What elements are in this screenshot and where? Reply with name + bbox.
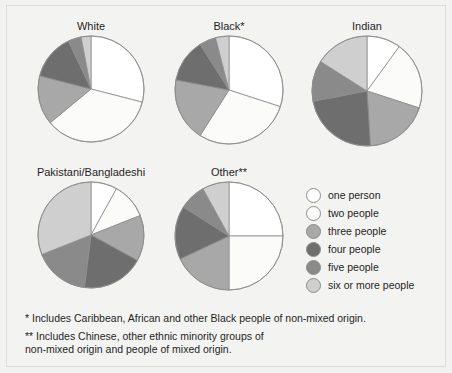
- legend-swatch-icon: [306, 278, 321, 293]
- chart-legend: one persontwo peoplethree peoplefour peo…: [306, 186, 446, 294]
- pie-panel-pakistani-bangladeshi: Pakistani/Bangladeshi: [11, 166, 171, 289]
- legend-row: five people: [306, 258, 446, 276]
- pie-title-other: Other**: [159, 166, 299, 179]
- figure-frame: White Black* Indian Pakistani/Bangladesh…: [6, 5, 446, 367]
- legend-label: one person: [328, 189, 381, 201]
- legend-label: three people: [328, 225, 386, 237]
- legend-row: three people: [306, 222, 446, 240]
- legend-row: six or more people: [306, 276, 446, 294]
- pie-panel-indian: Indian: [297, 20, 437, 147]
- legend-swatch-icon: [306, 260, 321, 275]
- legend-swatch-icon: [306, 188, 321, 203]
- pie-panel-white: White: [21, 20, 161, 143]
- legend-swatch-icon: [306, 242, 321, 257]
- pie-slice: [229, 236, 283, 290]
- pie-slice: [229, 182, 283, 236]
- pie-chart-black: [174, 35, 284, 145]
- pie-panel-black: Black*: [159, 20, 299, 145]
- pie-title-white: White: [21, 20, 161, 33]
- pie-title-indian: Indian: [297, 20, 437, 33]
- legend-swatch-icon: [306, 224, 321, 239]
- pie-chart-indian: [311, 35, 423, 147]
- footnote-black: * Includes Caribbean, African and other …: [25, 312, 435, 325]
- legend-label: four people: [328, 243, 381, 255]
- pie-title-pakistani-bangladeshi: Pakistani/Bangladeshi: [11, 166, 171, 179]
- pie-panel-other: Other**: [159, 166, 299, 291]
- legend-row: one person: [306, 186, 446, 204]
- pie-chart-white: [37, 35, 145, 143]
- legend-swatch-icon: [306, 206, 321, 221]
- footnotes: * Includes Caribbean, African and other …: [25, 312, 435, 361]
- legend-label: five people: [328, 261, 379, 273]
- legend-row: two people: [306, 204, 446, 222]
- legend-label: two people: [328, 207, 379, 219]
- pie-title-black: Black*: [159, 20, 299, 33]
- legend-row: four people: [306, 240, 446, 258]
- footnote-other: ** Includes Chinese, other ethnic minori…: [25, 330, 435, 356]
- legend-label: six or more people: [328, 279, 414, 291]
- pie-chart-other: [174, 181, 284, 291]
- pie-chart-pakistani-bangladeshi: [37, 181, 145, 289]
